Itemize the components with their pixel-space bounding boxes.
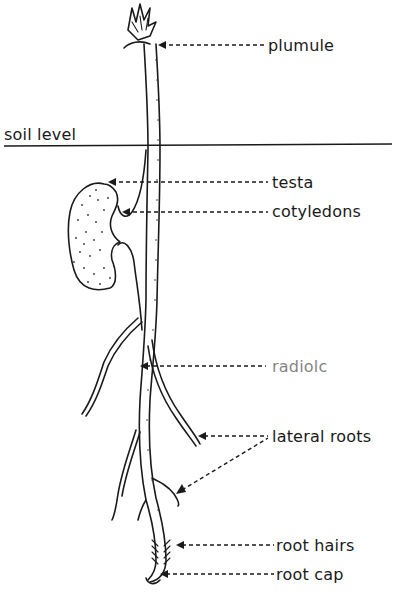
leader-lines (108, 41, 274, 578)
label-radicle: radiolc (272, 357, 327, 376)
label-root-hairs: root hairs (276, 536, 354, 555)
label-testa: testa (272, 173, 314, 192)
soil-level-line (4, 144, 392, 146)
label-cotyledons: cotyledons (272, 202, 361, 221)
stem-and-main-root (139, 44, 166, 582)
seedling-diagram: soil level (0, 0, 399, 592)
soil-level: soil level (4, 125, 392, 146)
label-root-cap: root cap (276, 565, 344, 584)
label-lateral-roots: lateral roots (272, 427, 371, 446)
seed-testa (68, 183, 120, 289)
cotyledon-stalk (118, 150, 146, 330)
label-plumule: plumule (268, 36, 334, 55)
soil-level-label: soil level (4, 125, 76, 144)
labels: plumule testa cotyledons radiolc lateral… (268, 36, 371, 584)
plumule-drawing (124, 4, 156, 48)
